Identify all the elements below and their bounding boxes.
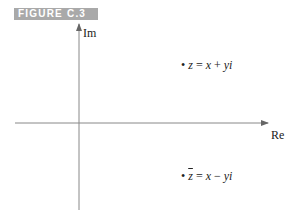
point-dot-icon: • xyxy=(181,58,185,72)
re-axis-label: Re xyxy=(271,128,284,143)
point-z-conjugate: •z = x − yi xyxy=(181,169,232,184)
complex-plane-axes xyxy=(0,0,299,222)
point-dot-icon: • xyxy=(181,169,185,183)
im-axis-label: Im xyxy=(83,26,96,41)
point-z: •z = x + yi xyxy=(181,58,232,73)
